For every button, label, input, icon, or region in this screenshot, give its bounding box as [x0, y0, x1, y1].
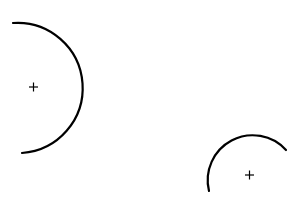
right-center-marker	[245, 171, 254, 180]
left-arc	[13, 23, 83, 153]
right-arc	[208, 135, 286, 191]
left-center-marker	[29, 83, 38, 92]
diagram-canvas	[0, 0, 301, 201]
